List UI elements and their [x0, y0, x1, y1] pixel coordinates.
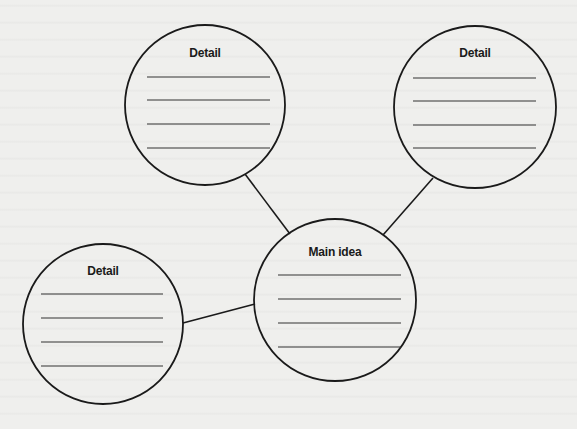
diagram-nodes: DetailDetailDetailMain idea — [23, 25, 556, 404]
node-detail-top-left: Detail — [125, 25, 285, 185]
connector-detail-top-right-to-main-idea — [383, 178, 433, 235]
node-main-idea: Main idea — [254, 219, 416, 381]
main-idea-label: Main idea — [309, 245, 362, 259]
detail-top-right-label: Detail — [459, 46, 490, 60]
detail-bottom-left-label: Detail — [87, 264, 118, 278]
node-detail-bottom-left: Detail — [23, 244, 183, 404]
main-idea-circle — [254, 219, 416, 381]
detail-top-left-label: Detail — [189, 46, 220, 60]
node-detail-top-right: Detail — [394, 26, 556, 188]
connector-detail-bottom-left-to-main-idea — [183, 304, 255, 323]
connector-detail-top-left-to-main-idea — [245, 174, 290, 234]
diagram-canvas: DetailDetailDetailMain idea — [0, 0, 577, 429]
concept-web-diagram: DetailDetailDetailMain idea — [0, 0, 577, 429]
